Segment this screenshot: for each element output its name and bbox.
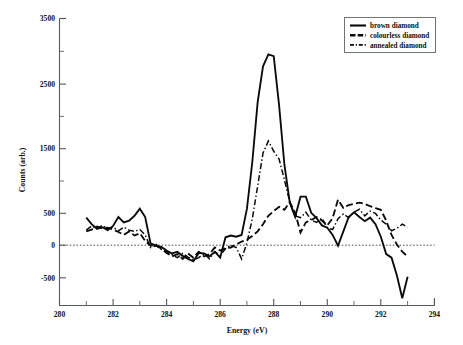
y-tick-label: 3500	[40, 14, 55, 23]
y-tick-label: -500	[41, 274, 55, 283]
x-tick-label: 280	[54, 310, 66, 319]
x-tick-label: 288	[268, 310, 280, 319]
chart-figure: 3500 2500 1500 500 0 -500 Counts (arb.)	[0, 0, 463, 345]
x-tick-label: 290	[322, 310, 334, 319]
legend-label-colourless-diamond: colourless diamond	[370, 32, 429, 40]
y-tick-label: 2500	[40, 80, 55, 89]
legend-label-brown-diamond: brown diamond	[370, 22, 419, 30]
x-tick-label: 292	[375, 310, 387, 319]
legend-label-annealed-diamond: annealed diamond	[370, 42, 427, 50]
x-tick-label: 294	[429, 310, 441, 319]
legend: brown diamond colourless diamond anneale…	[345, 18, 436, 53]
y-axis-title: Counts (arb.)	[18, 147, 27, 192]
y-tick-label: 0	[51, 241, 55, 250]
x-axis-title: Energy (eV)	[227, 326, 268, 335]
xanes-spectra-plot: 3500 2500 1500 500 0 -500 Counts (arb.)	[0, 0, 463, 345]
x-tick-label: 284	[161, 310, 173, 319]
x-tick-label: 282	[107, 310, 119, 319]
y-tick-label: 1500	[40, 144, 55, 153]
y-tick-label: 500	[44, 209, 56, 218]
x-tick-label: 286	[215, 310, 227, 319]
